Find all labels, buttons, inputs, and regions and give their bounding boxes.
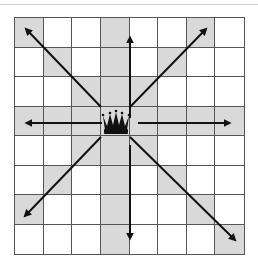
arrow-south-west (26, 137, 101, 215)
arrow-south-east (130, 137, 234, 239)
arrow-north-east (130, 30, 205, 107)
queen-crown-icon (102, 110, 131, 134)
top-rule (0, 4, 258, 5)
movement-arrows (14, 17, 245, 255)
chess-board (14, 17, 245, 255)
arrow-north-west (27, 30, 101, 107)
